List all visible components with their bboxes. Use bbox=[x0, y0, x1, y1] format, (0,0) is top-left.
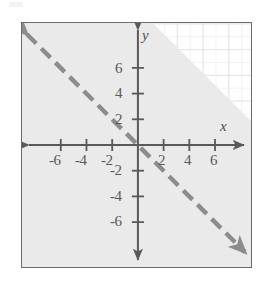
y-tick-label-6: 6 bbox=[115, 61, 122, 76]
x-tick-label-6: 6 bbox=[210, 153, 217, 168]
y-tick-label-neg4: -4 bbox=[110, 189, 122, 204]
y-tick-label-4: 4 bbox=[115, 86, 122, 101]
y-tick-label-2: 2 bbox=[115, 112, 122, 127]
x-tick-label-2: 2 bbox=[158, 153, 165, 168]
y-axis-label: y bbox=[142, 28, 149, 43]
x-axis-label: x bbox=[220, 119, 227, 134]
x-tick-label-neg6: -6 bbox=[49, 153, 61, 168]
plot-frame: x y -6 -4 -2 2 4 6 6 4 2 -2 -4 -6 bbox=[21, 22, 252, 268]
x-tick-label-4: 4 bbox=[184, 153, 191, 168]
scan-artifact bbox=[9, 2, 23, 7]
y-tick-label-neg2: -2 bbox=[110, 163, 122, 178]
axes-and-boundary-line bbox=[22, 23, 251, 267]
y-tick-label-neg6: -6 bbox=[110, 214, 122, 229]
boundary-line bbox=[27, 34, 245, 252]
inequality-graph-figure: x y -6 -4 -2 2 4 6 6 4 2 -2 -4 -6 bbox=[0, 0, 273, 288]
x-tick-label-neg4: -4 bbox=[75, 153, 87, 168]
